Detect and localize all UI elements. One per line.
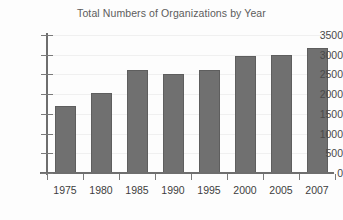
y-axis-label: 0 [307,167,343,179]
x-axis-label: 1985 [125,184,148,196]
x-axis-tick [227,174,228,180]
bar [163,74,184,173]
y-axis-label: 500 [307,147,343,159]
y-axis-label: 3000 [307,49,343,61]
x-axis-label: 1995 [197,184,220,196]
x-axis-label: 2000 [233,184,256,196]
plot-area [47,35,335,173]
gridline [47,74,335,75]
bar [127,70,148,173]
bar [91,93,112,173]
x-axis-tick [299,174,300,180]
x-axis-label: 1975 [53,184,76,196]
bar-chart: Total Numbers of Organizations by Year 0… [0,0,343,220]
chart-title: Total Numbers of Organizations by Year [0,7,343,19]
y-axis-tick [41,153,53,154]
gridline [47,35,335,36]
x-axis-tick [263,174,264,180]
x-axis-tick [119,174,120,180]
y-axis-label: 2000 [307,88,343,100]
x-axis-tick [47,174,48,180]
y-axis-tick [41,74,53,75]
y-axis-tick [41,94,53,95]
x-axis-label: 2005 [269,184,292,196]
y-axis-tick [41,114,53,115]
y-axis-label: 2500 [307,68,343,80]
y-axis-tick [41,134,53,135]
gridline [47,55,335,56]
x-axis-tick [335,174,336,180]
y-axis-label: 3500 [307,29,343,41]
bar [235,56,256,173]
x-axis-tick [191,174,192,180]
x-axis-tick [155,174,156,180]
x-axis-tick [83,174,84,180]
bar [55,106,76,173]
bar [199,70,220,173]
x-axis-label: 1990 [161,184,184,196]
y-axis-label: 1500 [307,108,343,120]
x-axis-label: 2007 [305,184,328,196]
y-axis-tick [41,35,53,36]
bar [271,55,292,173]
x-axis-label: 1980 [89,184,112,196]
x-axis-line [40,172,334,174]
y-axis-tick [41,55,53,56]
y-axis-label: 1000 [307,128,343,140]
